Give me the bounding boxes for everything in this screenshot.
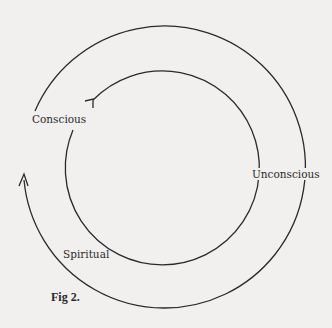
figure-caption: Fig 2. <box>51 290 80 305</box>
label-conscious: Conscious <box>32 113 86 125</box>
inner-arc <box>65 71 259 265</box>
outer-arrowhead-icon <box>19 174 28 186</box>
inner-arrowhead-icon <box>85 99 93 108</box>
outer-arc <box>24 26 305 308</box>
cycle-diagram <box>0 0 332 328</box>
label-unconscious: Unconscious <box>252 168 320 180</box>
label-spiritual: Spiritual <box>63 248 109 260</box>
